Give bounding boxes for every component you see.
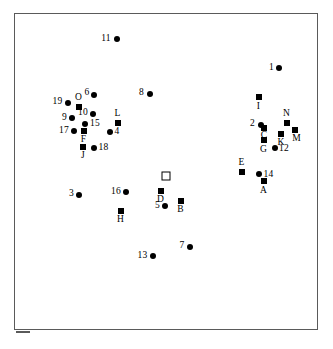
point-5-label: 5 — [155, 201, 160, 211]
point-M-label: M — [292, 134, 301, 144]
point-16-marker — [123, 189, 129, 195]
point-10-label: 10 — [78, 108, 88, 118]
point-15-label: 15 — [90, 119, 100, 129]
plot-border-artifact — [16, 331, 30, 333]
point-1-label: 1 — [269, 63, 274, 73]
point-D-marker — [158, 188, 164, 194]
point-13-marker — [150, 253, 156, 259]
point-G-marker — [261, 137, 267, 143]
point-H-marker — [118, 208, 124, 214]
point-M-marker — [292, 127, 298, 133]
point-A-label: A — [260, 186, 267, 196]
point-1-marker — [276, 65, 282, 71]
point-B-label: B — [177, 205, 184, 215]
point-2-label: 2 — [250, 119, 255, 129]
point-17-label: 17 — [59, 126, 69, 136]
point-8-label: 8 — [139, 88, 144, 98]
point-3-marker — [76, 192, 82, 198]
point-H-label: H — [117, 215, 124, 225]
point-N-marker — [284, 120, 290, 126]
point-7-label: 7 — [180, 241, 185, 251]
point-F-marker — [81, 128, 87, 134]
point-18-label: 18 — [99, 143, 109, 153]
point-I-label: I — [257, 102, 260, 112]
point-18-marker — [91, 145, 97, 151]
point-E-marker — [239, 169, 245, 175]
point-B-marker — [178, 198, 184, 204]
point-11-label: 11 — [101, 34, 111, 44]
point-12-marker — [272, 145, 278, 151]
point-19-marker — [65, 100, 71, 106]
point-16-label: 16 — [111, 187, 121, 197]
plot-frame: 1116819O109L15174I2NCMKFG12J18E14AD163B5… — [14, 13, 318, 330]
point-14-marker — [256, 171, 262, 177]
point-L-marker — [115, 120, 121, 126]
point-10-marker — [90, 111, 96, 117]
point-4-label: 4 — [115, 127, 120, 137]
point-17-marker — [71, 128, 77, 134]
point-13-label: 13 — [138, 251, 148, 261]
point-open-square-marker — [161, 172, 170, 181]
point-3-label: 3 — [69, 189, 74, 199]
point-J-label: J — [81, 151, 85, 161]
point-K-marker — [278, 131, 284, 137]
point-G-label: G — [260, 145, 267, 155]
point-E-label: E — [238, 158, 244, 168]
scatter-plot-figure: 1116819O109L15174I2NCMKFG12J18E14AD163B5… — [0, 0, 333, 349]
plot-area: 1116819O109L15174I2NCMKFG12J18E14AD163B5… — [15, 14, 317, 329]
point-9-marker — [69, 115, 75, 121]
point-8-marker — [147, 91, 153, 97]
point-L-label: L — [114, 109, 120, 119]
point-O-label: O — [75, 93, 82, 103]
caption-area — [0, 337, 333, 349]
point-4-marker — [107, 129, 113, 135]
point-6-marker — [91, 92, 97, 98]
point-I-marker — [256, 94, 262, 100]
point-N-label: N — [283, 109, 290, 119]
point-7-marker — [187, 244, 193, 250]
point-12-label: 12 — [279, 144, 289, 154]
point-J-marker — [80, 144, 86, 150]
point-6-label: 6 — [85, 88, 90, 98]
point-9-label: 9 — [62, 113, 67, 123]
point-A-marker — [261, 178, 267, 184]
point-11-marker — [114, 36, 120, 42]
point-19-label: 19 — [53, 97, 63, 107]
point-5-marker — [162, 203, 168, 209]
point-15-marker — [82, 121, 88, 127]
